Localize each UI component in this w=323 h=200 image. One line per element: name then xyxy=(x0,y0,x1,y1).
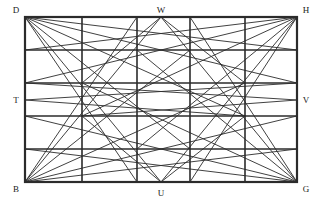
vertex-label-w: W xyxy=(157,5,166,15)
vertex-label-u: U xyxy=(158,188,165,198)
rectangle-border xyxy=(25,17,297,182)
vertex-label-d: D xyxy=(13,5,20,15)
vertex-label-h: H xyxy=(303,5,310,15)
vertex-label-v: V xyxy=(303,95,310,105)
vertex-label-b: B xyxy=(13,184,19,194)
geometry-diagram: DWHTVBUG xyxy=(0,0,323,200)
outer-rectangle xyxy=(25,17,297,182)
vertex-label-g: G xyxy=(303,184,310,194)
geometry-figure-canvas: DWHTVBUG xyxy=(0,0,323,200)
vertex-label-t: T xyxy=(13,95,19,105)
diagonal-lines-group xyxy=(25,17,297,182)
diagonal-line-d-2 xyxy=(25,17,245,116)
diagonal-line-t-25 xyxy=(25,100,245,116)
grid-lines-group xyxy=(25,17,297,182)
